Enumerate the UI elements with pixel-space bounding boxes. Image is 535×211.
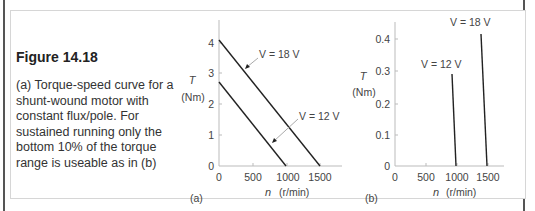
- chart-a-line-12v: [219, 82, 286, 166]
- chart-a-xtick: 1500: [308, 171, 332, 183]
- chart-b: 0 0.1 0.2 0.3 0.4 0 500 1000 1500 T (Nm)…: [352, 16, 504, 204]
- chart-a-panel-label: (a): [190, 192, 203, 204]
- chart-b-line-18v: [481, 34, 487, 166]
- chart-a-ytick: 3: [208, 67, 214, 79]
- chart-b-ytick: 0: [384, 160, 390, 172]
- chart-b-ytick: 0.2: [375, 98, 390, 110]
- chart-a-ytick: 0: [208, 160, 214, 172]
- chart-a-y-unit: (Nm): [181, 91, 204, 103]
- chart-b-xtick: 1500: [476, 171, 500, 183]
- figure-charts: 0 1 2 3 4 0 500 1000 1500 T (Nm) n (r/mi…: [0, 0, 535, 211]
- chart-a-x-unit: (r/min): [279, 186, 309, 198]
- chart-b-series-label-12v: V = 12 V: [421, 58, 462, 70]
- chart-b-y-unit: (Nm): [352, 86, 375, 98]
- chart-b-series-label-18v: V = 18 V: [450, 16, 491, 28]
- chart-b-xtick: 0: [392, 171, 398, 183]
- chart-b-xtick: 500: [417, 171, 435, 183]
- chart-a-x-var: n: [265, 186, 271, 198]
- chart-a-ytick: 2: [208, 98, 214, 110]
- chart-a-ytick: 1: [208, 129, 214, 141]
- chart-a-y-label: T: [189, 74, 197, 86]
- chart-a-ytick: 4: [208, 37, 214, 49]
- chart-a: 0 1 2 3 4 0 500 1000 1500 T (Nm) n (r/mi…: [181, 20, 342, 204]
- chart-a-series-label-18v: V = 18 V: [259, 48, 300, 60]
- chart-a-series-label-12v: V = 12 V: [299, 110, 340, 122]
- chart-b-line-12v: [452, 74, 456, 166]
- chart-b-x-unit: (r/min): [446, 186, 476, 198]
- chart-b-panel-label: (b): [365, 192, 378, 204]
- chart-a-xtick: 1000: [276, 171, 300, 183]
- chart-b-ytick: 0.1: [375, 129, 390, 141]
- chart-b-ytick: 0.3: [375, 65, 390, 77]
- chart-a-y-ticks: 0 1 2 3 4: [208, 37, 222, 172]
- chart-a-xtick: 0: [216, 171, 222, 183]
- chart-b-ytick: 0.4: [375, 33, 390, 45]
- chart-b-y-label: T: [360, 70, 368, 82]
- chart-a-leader-12v: [274, 119, 298, 141]
- chart-b-x-var: n: [433, 186, 439, 198]
- chart-b-xtick: 1000: [445, 171, 469, 183]
- chart-a-xtick: 500: [244, 171, 262, 183]
